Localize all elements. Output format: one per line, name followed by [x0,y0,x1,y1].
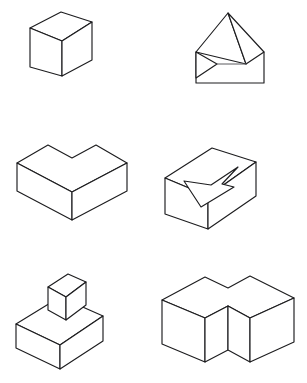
worksheet-sheet [0,0,307,383]
cube-drawing [0,0,153,127]
figure-cell-chevron-slab [0,128,153,255]
box-with-arrow-notch-drawing [154,128,307,255]
chevron-slab-faces [17,145,127,220]
l-block-faces [162,276,294,362]
figure-cell-cube-on-slab [0,256,153,383]
figure-cell-box-with-arrow-notch [154,128,307,255]
notched-box-faces [165,148,256,229]
figure-cell-open-envelope-prism [154,0,307,127]
l-shaped-block-drawing [154,256,307,383]
chevron-slab-drawing [0,128,153,255]
cube-faces [30,12,92,76]
open-envelope-prism-drawing [154,0,307,127]
envelope-faces [196,13,264,83]
cube-on-slab-drawing [0,256,153,383]
figure-cell-cube [0,0,153,127]
figure-cell-l-shaped-block [154,256,307,383]
